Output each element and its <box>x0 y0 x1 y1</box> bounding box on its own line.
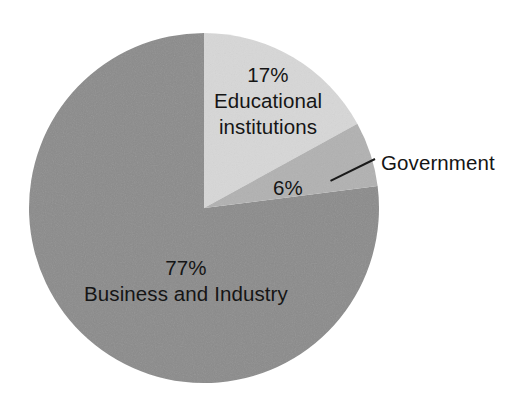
pie-label-government-percent: 6% <box>258 175 318 201</box>
pie-label-business-and-industry: 77% Business and Industry <box>60 255 312 307</box>
pie-label-government-name: Government <box>381 150 521 176</box>
business-percent: 77% <box>60 255 312 281</box>
pie-label-educational-institutions: 17% Educational institutions <box>188 62 348 139</box>
business-name: Business and Industry <box>60 281 312 307</box>
government-name: Government <box>381 150 521 176</box>
educational-percent: 17% <box>188 62 348 88</box>
educational-name-line2: institutions <box>188 114 348 140</box>
pie-chart-figure: 17% Educational institutions 6% Governme… <box>0 0 524 417</box>
government-percent: 6% <box>258 175 318 201</box>
educational-name-line1: Educational <box>188 88 348 114</box>
